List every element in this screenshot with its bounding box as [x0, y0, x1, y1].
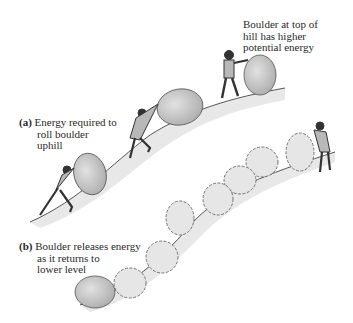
label-a: (a) Energy required to roll boulder uphi… — [19, 117, 117, 152]
label-top-line-3: potential energy — [243, 42, 318, 54]
label-b-tag: (b) — [19, 240, 32, 252]
label-b: (b) Boulder releases energy as it return… — [19, 241, 141, 276]
boulder-end — [75, 276, 115, 308]
label-a-tag: (a) — [19, 116, 32, 128]
label-top-boulder: Boulder at top of hill has higher potent… — [243, 19, 318, 54]
label-a-line-2: roll boulder — [19, 129, 117, 141]
label-b-line-1: Boulder releases energy — [35, 240, 140, 252]
label-top-line-1: Boulder at top of — [243, 19, 318, 31]
boulder-top — [244, 55, 276, 95]
label-a-line-1: Energy required to — [35, 116, 117, 128]
label-a-line-3: uphill — [19, 140, 117, 152]
label-b-line-3: lower level — [19, 264, 141, 276]
